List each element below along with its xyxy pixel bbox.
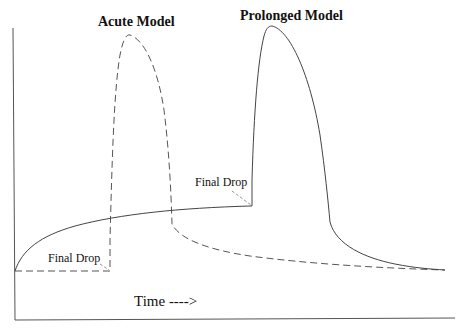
diagram-canvas: Acute Model Prolonged Model Final Drop F… bbox=[0, 0, 459, 332]
y-axis bbox=[13, 28, 15, 320]
x-axis-label: Time ----> bbox=[134, 293, 197, 309]
final-drop-left-label: Final Drop bbox=[48, 251, 100, 265]
acute-model-curve bbox=[15, 35, 445, 271]
prolonged-model-curve bbox=[15, 26, 445, 271]
x-axis bbox=[15, 318, 455, 320]
final-drop-left-leader bbox=[100, 264, 109, 270]
acute-model-label: Acute Model bbox=[98, 14, 175, 29]
final-drop-right-label: Final Drop bbox=[195, 175, 247, 189]
prolonged-model-label: Prolonged Model bbox=[240, 8, 343, 23]
final-drop-right-leader bbox=[232, 191, 251, 205]
